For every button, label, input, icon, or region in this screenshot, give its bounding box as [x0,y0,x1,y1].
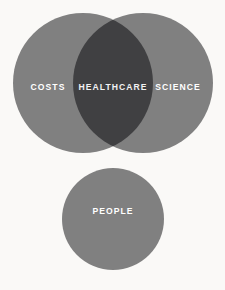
set-label-science: SCIENCE [155,82,201,92]
set-label-costs: COSTS [31,82,66,92]
set-circle-people[interactable] [62,168,164,270]
venn-diagram-svg: COSTS HEALTHCARE SCIENCE PEOPLE [0,0,225,290]
set-label-people: PEOPLE [92,206,133,216]
venn-diagram-canvas: COSTS HEALTHCARE SCIENCE PEOPLE [0,0,225,290]
intersection-label-healthcare: HEALTHCARE [78,82,147,92]
